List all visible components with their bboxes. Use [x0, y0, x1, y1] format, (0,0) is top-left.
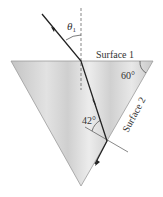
apex-angle-label: 60° [121, 70, 135, 81]
theta1-arc [66, 35, 81, 40]
prism-diagram: θ1 Surface 1 60° 42° Surface 2 [0, 0, 163, 197]
surface1-label: Surface 1 [96, 49, 134, 60]
internal-angle-label: 42° [82, 115, 96, 126]
theta1-label: θ1 [67, 20, 76, 34]
ray-arrow-icon [51, 27, 55, 32]
